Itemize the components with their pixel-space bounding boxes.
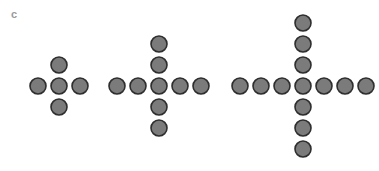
dot: [51, 78, 67, 94]
dot-cross-diagram: [0, 0, 379, 171]
dot: [172, 78, 188, 94]
dot: [30, 78, 46, 94]
dot: [109, 78, 125, 94]
dot: [151, 36, 167, 52]
dot: [193, 78, 209, 94]
dot: [295, 57, 311, 73]
dot: [72, 78, 88, 94]
dot: [151, 57, 167, 73]
dot: [358, 78, 374, 94]
dot: [274, 78, 290, 94]
cross-2: [109, 36, 209, 136]
dot: [253, 78, 269, 94]
dot: [295, 36, 311, 52]
dot: [51, 57, 67, 73]
dot: [51, 99, 67, 115]
dot: [295, 120, 311, 136]
dot: [232, 78, 248, 94]
dot: [151, 99, 167, 115]
dot: [295, 141, 311, 157]
cross-3: [232, 15, 374, 157]
cross-1: [30, 57, 88, 115]
dot: [295, 99, 311, 115]
dot: [151, 78, 167, 94]
dot: [130, 78, 146, 94]
dot: [151, 120, 167, 136]
dot: [337, 78, 353, 94]
dot: [316, 78, 332, 94]
dot: [295, 15, 311, 31]
dot: [295, 78, 311, 94]
